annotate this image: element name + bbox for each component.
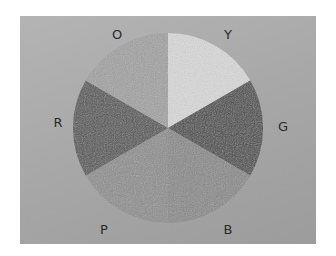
segment-label-p: P [100,222,108,237]
segment-label-y: Y [224,27,232,42]
segment-label-o: O [112,27,122,42]
segment-label-b: B [224,222,233,237]
segment-label-r: R [53,115,62,130]
segment-label-g: G [278,119,288,134]
